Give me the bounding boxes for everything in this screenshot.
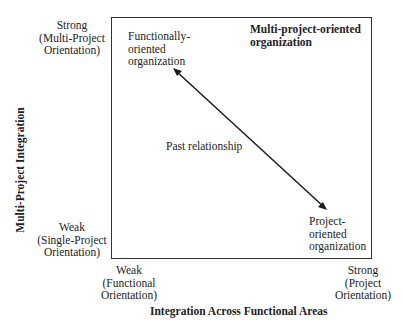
br-line-2: oriented [309, 228, 375, 241]
x-high-line-1: Strong [330, 264, 396, 277]
x-high-line-3: Orientation) [330, 289, 396, 302]
x-high-line-2: (Project [330, 277, 396, 290]
label-multi-project-oriented: Multi-project-oriented organization [250, 23, 380, 48]
label-project-oriented: Project- oriented organization [309, 215, 375, 253]
x-axis-low-label: Weak (Functional Orientation) [96, 264, 162, 302]
y-axis-title: Multi-Project Integration [14, 107, 26, 232]
y-high-line-3: Orientation) [36, 44, 108, 57]
tl-line-1: Functionally- [128, 30, 218, 43]
y-axis-high-label: Strong (Multi-Project Orientation) [36, 19, 108, 57]
x-axis-high-label: Strong (Project Orientation) [330, 264, 396, 302]
label-functionally-oriented: Functionally- oriented organization [128, 30, 218, 68]
y-high-line-2: (Multi-Project [36, 32, 108, 45]
x-low-line-3: Orientation) [96, 289, 162, 302]
tr-line-2: organization [250, 36, 380, 49]
br-line-1: Project- [309, 215, 375, 228]
y-low-line-3: Orientation) [34, 246, 110, 259]
tl-line-3: organization [128, 55, 218, 68]
y-axis-low-label: Weak (Single-Project Orientation) [34, 221, 110, 259]
tl-line-2: oriented [128, 43, 218, 56]
y-high-line-1: Strong [36, 19, 108, 32]
br-line-3: organization [309, 240, 375, 253]
x-low-line-2: (Functional [96, 277, 162, 290]
y-low-line-2: (Single-Project [34, 234, 110, 247]
x-axis-title: Integration Across Functional Areas [150, 305, 400, 318]
y-low-line-1: Weak [34, 221, 110, 234]
arrow-label: Past relationship [166, 140, 242, 153]
x-low-line-1: Weak [96, 264, 162, 277]
tr-line-1: Multi-project-oriented [250, 23, 380, 36]
